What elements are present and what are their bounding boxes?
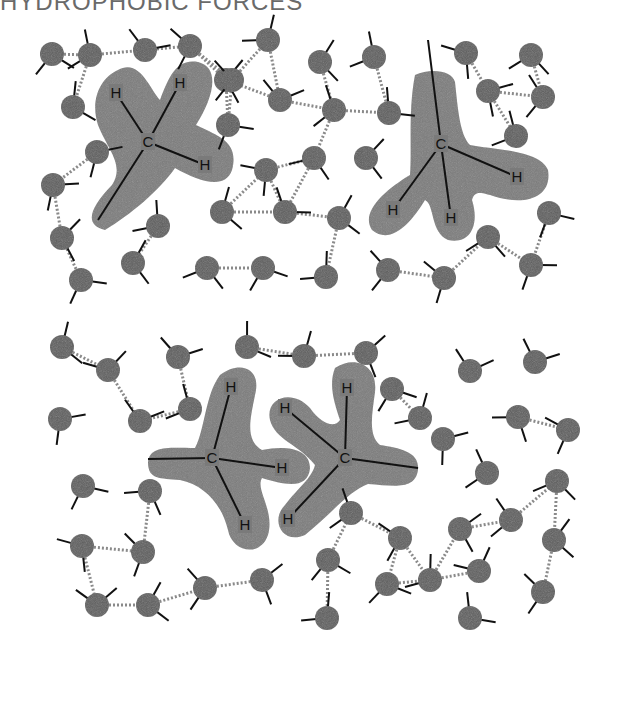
oxygen-atom <box>146 214 170 238</box>
water-molecule <box>431 427 468 465</box>
water-molecule <box>523 339 560 374</box>
water-molecule <box>509 43 549 74</box>
oxygen-atom <box>308 50 332 74</box>
water-molecule <box>125 534 155 577</box>
water-molecule <box>289 146 329 179</box>
water-molecule <box>301 592 339 630</box>
water-molecule <box>250 256 287 291</box>
water-molecule <box>545 418 580 454</box>
water-molecule <box>327 195 360 234</box>
oxygen-atom <box>523 350 547 374</box>
oxygen-atom <box>458 359 482 383</box>
water-molecule <box>166 384 202 421</box>
oxygen-atom <box>545 469 569 493</box>
oxygen-atom <box>506 405 530 429</box>
oxygen-atom <box>316 548 340 572</box>
hydrogen-atom-label: H <box>200 156 211 173</box>
water-molecule <box>76 588 117 617</box>
hydrogen-atom-label: H <box>277 459 288 476</box>
oxygen-atom <box>71 474 95 498</box>
water-molecule <box>454 547 491 583</box>
oxygen-atom <box>504 124 528 148</box>
hydrogen-atom-label: H <box>111 84 122 101</box>
water-molecule <box>458 592 496 630</box>
oxygen-atom <box>50 226 74 250</box>
oxygen-atom <box>519 43 543 67</box>
water-molecule <box>161 337 203 369</box>
water-molecule <box>300 251 338 289</box>
water-molecule <box>350 32 386 69</box>
water-molecule <box>83 351 126 382</box>
oxygen-atom <box>131 540 155 564</box>
hydrogen-atom-label: H <box>280 399 291 416</box>
oxygen-atom <box>467 559 491 583</box>
oxygen-atom <box>210 200 234 224</box>
oxygen-atom <box>70 534 94 558</box>
oxygen-atom <box>388 526 412 550</box>
water-molecule <box>71 474 108 509</box>
oxygen-atom <box>314 265 338 289</box>
water-molecule <box>405 554 442 592</box>
oxygen-atom <box>537 201 561 225</box>
water-molecule <box>524 574 555 614</box>
oxygen-atom <box>431 427 455 451</box>
oxygen-atom <box>235 335 259 359</box>
oxygen-atom <box>121 251 145 275</box>
oxygen-atom <box>50 335 74 359</box>
hydrogen-atom-label: H <box>512 168 523 185</box>
water-molecule <box>354 139 384 179</box>
oxygen-atom <box>542 528 566 552</box>
water-molecule <box>542 519 573 557</box>
hydrogen-atom-label: H <box>342 379 353 396</box>
oxygen-atom <box>354 341 378 365</box>
water-molecule <box>526 75 555 117</box>
water-molecule <box>312 548 351 580</box>
oxygen-atom <box>432 266 456 290</box>
water-molecule <box>448 514 481 552</box>
water-molecule <box>50 219 80 261</box>
water-molecule <box>491 499 523 537</box>
oxygen-atom <box>136 593 160 617</box>
oxygen-atom <box>166 345 190 369</box>
water-molecule <box>50 322 82 364</box>
oxygen-atom <box>251 256 275 280</box>
water-molecule <box>519 253 557 290</box>
oxygen-atom <box>96 358 120 382</box>
oxygen-atom <box>418 568 442 592</box>
water-molecule <box>216 113 254 149</box>
water-molecule <box>129 29 170 62</box>
oxygen-atom <box>531 85 555 109</box>
water-molecule <box>69 268 107 304</box>
oxygen-atom <box>40 42 64 66</box>
oxygen-atom <box>322 98 346 122</box>
oxygen-atom <box>408 406 432 430</box>
oxygen-atom <box>448 517 472 541</box>
oxygen-atom <box>138 479 162 503</box>
oxygen-atom <box>475 461 499 485</box>
water-molecule <box>242 15 280 52</box>
hydrogen-atom-label: H <box>388 201 399 218</box>
water-molecule <box>369 572 411 603</box>
oxygen-atom <box>48 407 72 431</box>
oxygen-atom <box>69 268 93 292</box>
water-molecule <box>314 85 346 126</box>
carbon-atom-label: C <box>207 449 218 466</box>
carbon-atom-label: C <box>143 133 154 150</box>
oxygen-atom <box>499 508 523 532</box>
oxygen-atom <box>268 88 292 112</box>
oxygen-atom <box>454 41 478 65</box>
water-molecule <box>210 187 242 229</box>
water-molecule <box>36 42 74 74</box>
hydrogen-atom-label: H <box>226 378 237 395</box>
water-molecule <box>188 569 217 610</box>
oxygen-atom <box>476 225 500 249</box>
hydrophobic-forces-diagram: CHHHCHHHCHHHCHHH <box>0 0 644 707</box>
oxygen-atom <box>375 572 399 596</box>
water-molecule <box>48 407 86 445</box>
water-molecule <box>68 30 102 69</box>
oxygen-atom <box>85 140 109 164</box>
water-molecule <box>537 201 574 237</box>
oxygen-atom <box>292 344 316 368</box>
oxygen-atom <box>250 568 274 592</box>
water-molecule <box>278 331 316 368</box>
